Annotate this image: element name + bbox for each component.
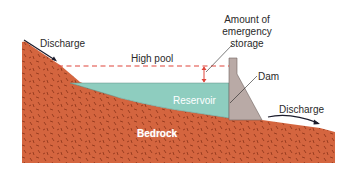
high-pool-label: High pool — [131, 53, 173, 64]
dam-label: Dam — [258, 71, 279, 82]
emergency-storage-label-2: emergency — [222, 26, 272, 37]
dam-diagram: Discharge High pool Amount of emergency … — [0, 0, 342, 174]
emergency-storage-label-1: Amount of — [222, 14, 272, 25]
bedrock-label: Bedrock — [137, 128, 177, 139]
reservoir-label: Reservoir — [173, 95, 216, 106]
emergency-storage-label-3: storage — [222, 38, 272, 49]
discharge-left-label: Discharge — [40, 38, 85, 49]
discharge-right-label: Discharge — [279, 104, 324, 115]
diagram-graphic — [0, 0, 342, 174]
discharge-right-arrow — [268, 115, 318, 123]
dam-structure — [229, 58, 262, 120]
